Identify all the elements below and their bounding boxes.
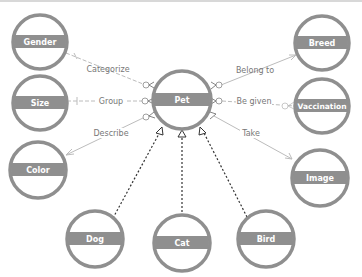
entity-pet[interactable]: Pet [150,71,214,129]
triangle-arrow-icon [178,130,186,137]
optional-marker-icon [142,98,148,104]
entity-vaccination[interactable]: Vaccination [292,79,352,133]
triangle-arrow-icon [156,127,163,135]
crowsfoot-icon [210,112,216,119]
optional-marker-icon [143,82,149,88]
crowsfoot-icon [149,82,154,88]
entity-label: Image [306,174,334,183]
entity-label: Breed [309,39,336,48]
entity-dog[interactable]: Dog [65,211,127,267]
entity-label: Gender [24,38,57,47]
inherit-bird [199,127,247,217]
entity-image[interactable]: Image [290,150,352,206]
crowsfoot-icon [211,82,216,89]
entity-label: Dog [86,235,104,244]
entity-color[interactable]: Color [8,142,70,198]
inherit-dog [113,127,163,218]
entity-label: Cat [174,239,189,248]
entity-label: Pet [174,96,189,105]
edge-label-take: Take [241,129,260,138]
entity-bird[interactable]: Bird [236,211,298,267]
entity-relationship-diagram: Categorize Group Describe Belong to Be g… [0,0,362,277]
optional-marker-icon [282,103,288,109]
edge-label-be-given: Be given [237,97,272,106]
edge-label-categorize: Categorize [86,65,129,74]
entity-cat[interactable]: Cat [152,215,214,271]
optional-marker-icon [216,98,222,104]
edge-label-belong-to: Belong to [236,66,274,75]
triangle-arrow-icon [199,127,206,135]
entity-size[interactable]: Size [10,76,70,130]
entity-gender[interactable]: Gender [10,15,70,69]
edge-label-describe: Describe [93,129,128,138]
entity-label: Size [31,99,50,108]
edge-label-group: Group [99,97,123,106]
entity-label: Vaccination [298,102,347,111]
entity-breed[interactable]: Breed [292,16,352,70]
entity-label: Bird [257,235,276,244]
optional-marker-icon [216,82,222,88]
optional-marker-icon [143,114,149,120]
inherit-cat [178,130,186,216]
entity-label: Color [26,166,50,175]
